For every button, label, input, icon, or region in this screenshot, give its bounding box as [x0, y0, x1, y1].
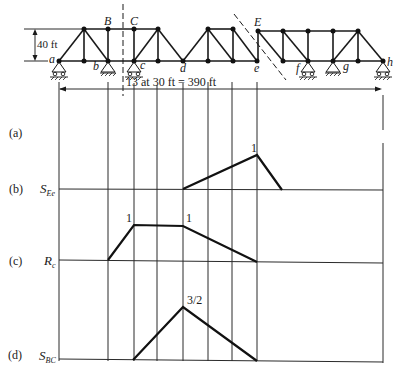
node-label-h: h — [387, 55, 393, 69]
node-label-b: b — [93, 59, 99, 73]
panel-tag-c: (c) — [9, 254, 22, 268]
influence-line-S-BC: (d) SBC 3/2 — [8, 293, 383, 365]
node-label-c: c — [140, 58, 146, 72]
ordinate-label-S-BC: SBC — [39, 348, 56, 365]
projection-grid — [59, 82, 383, 363]
height-dimension-label: 40 ft — [37, 38, 57, 50]
peak-label-S-BC: 3/2 — [187, 293, 202, 307]
node-label-f: f — [296, 61, 301, 75]
influence-line-S-Ee: (b) SEe 1 — [9, 141, 383, 198]
ordinate-label-R-c: Rc — [43, 253, 56, 270]
span-dimension-label: 13 at 30 ft = 390 ft — [126, 75, 217, 89]
node-label-C: C — [130, 14, 139, 28]
node-label-a: a — [49, 52, 55, 66]
node-label-d: d — [180, 61, 187, 75]
pin-support-g — [325, 62, 341, 76]
node-label-E: E — [253, 15, 262, 29]
panel-tag-b: (b) — [9, 182, 23, 196]
peak-label-S-Ee: 1 — [251, 141, 257, 155]
panel-tag-d: (d) — [8, 348, 22, 362]
influence-line-R-c: (c) Rc 1 1 — [9, 211, 383, 270]
peak-label-R-c-right: 1 — [186, 211, 192, 225]
panel-tag-a: (a) — [9, 126, 22, 140]
node-label-g: g — [343, 59, 349, 73]
node-label-B: B — [104, 14, 112, 28]
roller-support-f — [299, 62, 317, 80]
truss-influence-line-figure: 40 ft — [0, 0, 399, 377]
pin-support-b — [100, 62, 116, 76]
node-label-e: e — [254, 61, 260, 75]
peak-label-R-c-left: 1 — [126, 211, 132, 225]
ordinate-label-S-Ee: SEe — [40, 181, 55, 198]
